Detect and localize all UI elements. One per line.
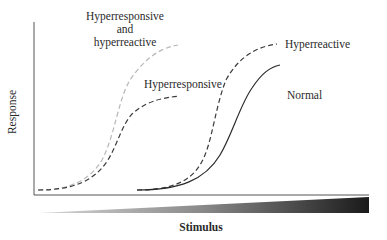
label-hyperreactive: Hyperreactive [285,38,350,51]
label-normal: Normal [287,89,322,101]
stimulus-wedge [38,197,369,213]
label-hh-line1: Hyperresponsive [86,10,164,23]
curve-hyperresponsive-and-hyperreactive [38,45,178,190]
y-axis-title: Response [6,90,19,134]
x-axis-title: Stimulus [179,221,223,233]
label-hh-line2: and [117,23,134,35]
curve-hyperreactive [137,44,277,190]
label-hh-line3: hyperreactive [94,36,157,49]
response-stimulus-diagram: Hyperresponsive and hyperreactive Hyperr… [0,0,387,240]
label-hyperresponsive: Hyperresponsive [144,78,222,91]
